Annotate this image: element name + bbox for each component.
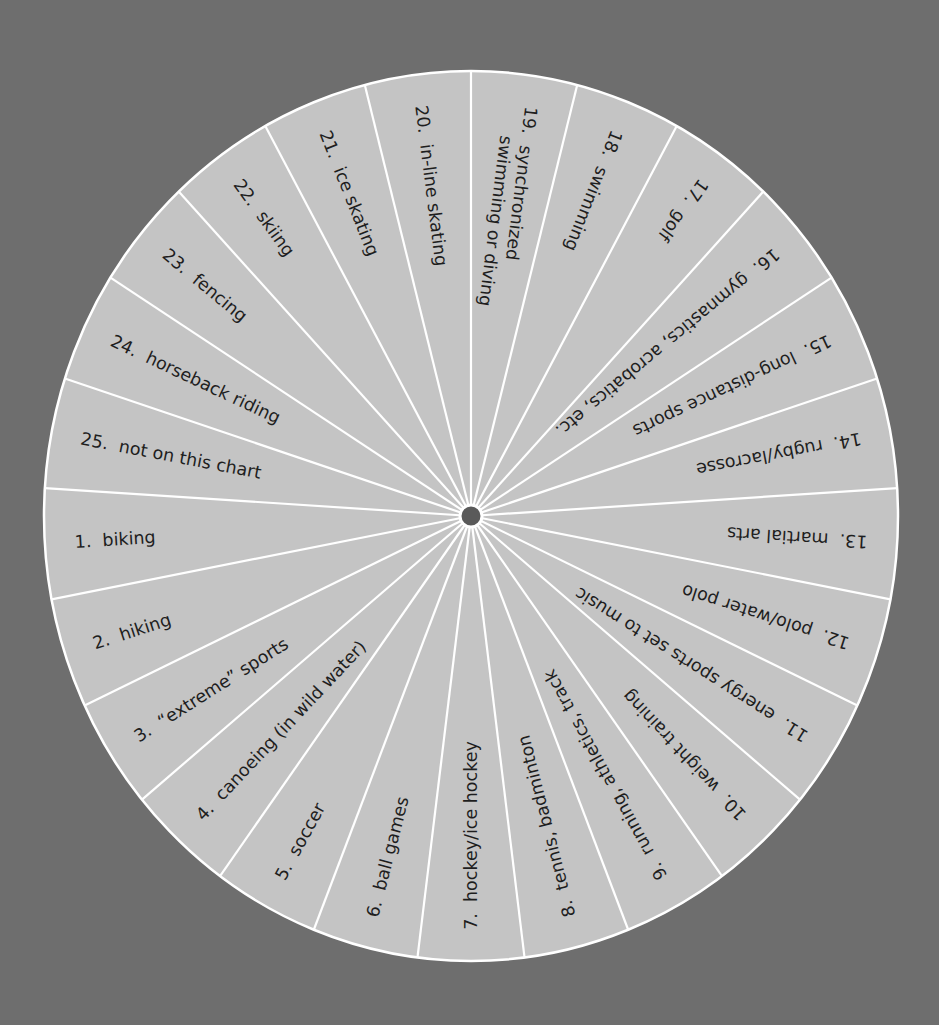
wheel-graphic: 19. synchronizedswimming or diving18. sw… — [0, 0, 939, 1025]
wedge-number: 7. — [461, 902, 481, 930]
wedge-label-text: 7. hockey/ice hockey — [461, 741, 481, 930]
wedge-label-7: 7. hockey/ice hockey — [461, 741, 481, 930]
hub-dot — [460, 505, 482, 527]
wedge-activity: hockey/ice hockey — [461, 741, 481, 902]
sports-wheel-diagram: 19. synchronizedswimming or diving18. sw… — [0, 0, 939, 1025]
wedge-number: 13. — [828, 530, 868, 552]
wedge-number: 1. — [74, 530, 103, 552]
wedge-activity: biking — [102, 527, 156, 550]
